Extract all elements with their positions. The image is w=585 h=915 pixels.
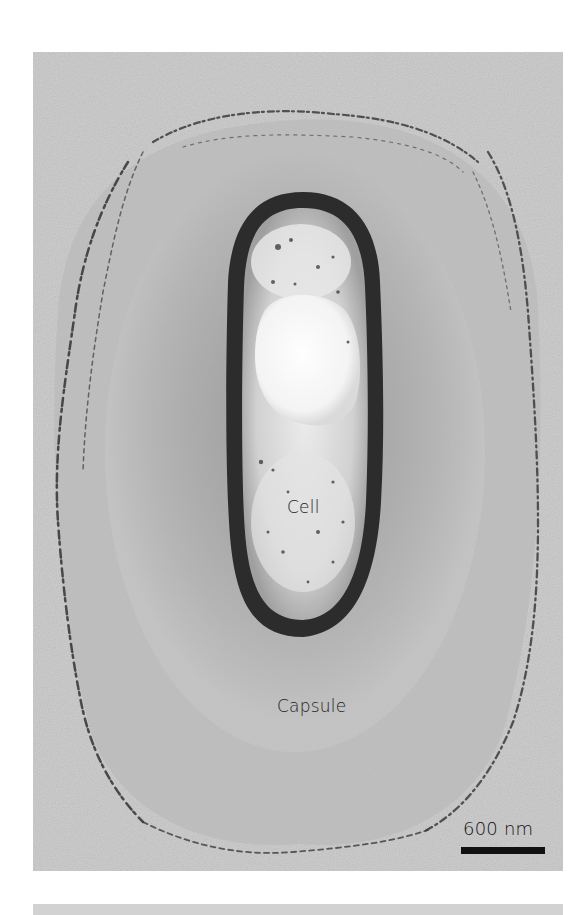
micrograph-image [33,52,563,871]
micrograph: Cell Capsule 600 nm [33,52,563,871]
capsule-label: Capsule [277,696,346,716]
cell-label: Cell [287,497,320,517]
next-figure-edge [33,904,563,915]
scale-bar [461,847,545,854]
scale-bar-label: 600 nm [463,818,533,839]
